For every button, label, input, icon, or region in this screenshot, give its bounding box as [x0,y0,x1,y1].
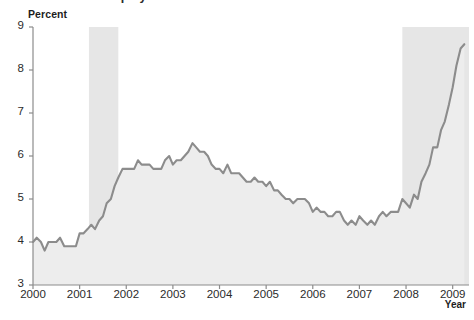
x-tick-label: 2001 [58,288,102,300]
x-tick-label: 2000 [11,288,55,300]
x-tick-label: 2006 [291,288,335,300]
x-tick-label: 2005 [244,288,288,300]
x-tick-label: 2004 [198,288,242,300]
x-tick-label: 2009 [431,288,474,300]
y-tick-label: 4 [6,234,24,246]
unemployment-rate-chart: Unemployment rate Percent Year 3456789 2… [0,0,474,320]
y-tick-label: 5 [6,191,24,203]
x-tick-label: 2008 [384,288,428,300]
x-tick-label: 2007 [337,288,381,300]
x-tick-label: 2002 [104,288,148,300]
x-tick-label: 2003 [151,288,195,300]
plot-area [0,0,474,320]
y-tick-label: 9 [6,19,24,31]
y-tick-label: 7 [6,105,24,117]
y-tick-label: 8 [6,62,24,74]
y-tick-label: 6 [6,148,24,160]
